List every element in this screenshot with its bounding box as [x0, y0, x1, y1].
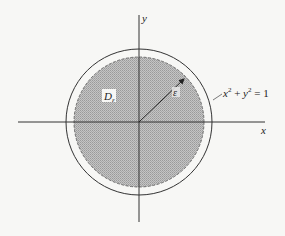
y-axis-label: y: [141, 12, 147, 24]
x-axis-label: x: [260, 124, 266, 136]
circle-equation-label: x2 + y2 = 1: [222, 86, 269, 99]
diagram-canvas: y x Dε ε x2 + y2 = 1: [0, 0, 285, 236]
radius-label: ε: [173, 87, 177, 98]
equation-leader-line: [213, 94, 222, 100]
